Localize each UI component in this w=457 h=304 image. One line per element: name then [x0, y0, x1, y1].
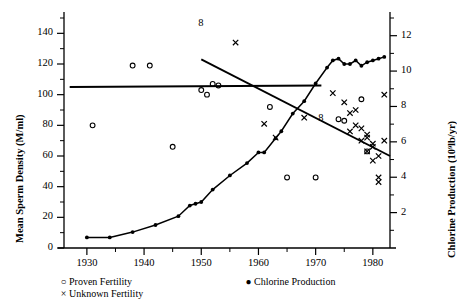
y-tick-label-right: 6 [401, 135, 406, 146]
y-tick-label-left: 140 [0, 26, 53, 37]
x-tick-label: 1950 [181, 257, 221, 268]
unknown-fertility-point [302, 115, 307, 120]
chlorine-production-point [291, 112, 295, 116]
chlorine-production-point [245, 161, 249, 165]
chlorine-production-point [279, 129, 283, 133]
legend-label: Proven Fertility [69, 276, 132, 287]
unknown-fertility-point [376, 175, 381, 180]
proven-fertility-point [170, 144, 175, 149]
chlorine-production-point [228, 174, 232, 178]
x-tick-label: 1940 [124, 257, 164, 268]
chlorine-production-point [262, 151, 266, 155]
proven-fertility-point [313, 175, 318, 180]
unknown-fertility-point [261, 121, 266, 126]
y-tick-label-left: 20 [0, 210, 53, 221]
chlorine-production-point [342, 62, 346, 66]
chlorine-production-point [194, 202, 198, 206]
chlorine-production-point [131, 230, 135, 234]
chlorine-production-point [154, 223, 158, 227]
chlorine-production-point [337, 57, 341, 61]
unknown-fertility-point [353, 107, 358, 112]
chlorine-production-point [188, 204, 192, 208]
proven-fertility-point [285, 175, 290, 180]
chlorine-production-point [199, 200, 203, 204]
legend-item: ●Chlorine Production [243, 276, 335, 287]
chlorine-production-point [354, 59, 358, 63]
x-tick-label: 1980 [353, 257, 393, 268]
legend-marker-icon: ● [243, 276, 254, 287]
proven-fertility-point [336, 117, 341, 122]
unknown-fertility-point [359, 126, 364, 131]
proven-fertility-point [90, 123, 95, 128]
proven-fertility-point [147, 63, 152, 68]
chlorine-production-point [85, 235, 89, 239]
y-tick-label-left: 0 [0, 241, 53, 252]
sample-size-annotation: 8 [198, 17, 203, 28]
proven-fertility-point [130, 63, 135, 68]
unknown-fertility-point [342, 100, 347, 105]
legend-marker-icon: ○ [58, 276, 69, 287]
chlorine-production-point [314, 82, 318, 86]
proven-fertility-point [199, 88, 204, 93]
chlorine-production-point [365, 60, 369, 64]
chlorine-production-point [211, 188, 215, 192]
y-tick-label-left: 60 [0, 149, 53, 160]
proven-fertility-point [342, 118, 347, 123]
legend-label: Unknown Fertility [69, 288, 143, 299]
chlorine-production-point [325, 66, 329, 70]
chlorine-production-point [377, 57, 381, 61]
chlorine-production-point [257, 151, 261, 155]
chlorine-production-point [108, 235, 112, 239]
unknown-fertility-point [330, 90, 335, 95]
unknown-fertility-point [353, 123, 358, 128]
legend-marker-icon: × [58, 288, 69, 299]
chlorine-production-point [302, 99, 306, 103]
x-tick-label: 1930 [67, 257, 107, 268]
x-tick-label: 1970 [296, 257, 336, 268]
sample-size-annotation: 8 [318, 112, 323, 123]
y-tick-label-left: 100 [0, 88, 53, 99]
chlorine-production-point [382, 55, 386, 59]
chlorine-production-point [176, 214, 180, 218]
y-tick-label-right: 2 [401, 206, 406, 217]
chlorine-production-point [360, 64, 364, 68]
y-tick-label-right: 8 [401, 99, 406, 110]
unknown-fertility-point [370, 158, 375, 163]
flat-regression-line [70, 85, 322, 87]
x-tick-label: 1960 [238, 257, 278, 268]
unknown-fertility-point [347, 129, 352, 134]
unknown-fertility-point [364, 135, 369, 140]
legend-item: ×Unknown Fertility [58, 288, 143, 299]
legend-label: Chlorine Production [254, 276, 335, 287]
unknown-fertility-point [347, 110, 352, 115]
unknown-fertility-point [376, 153, 381, 158]
y-tick-label-right: 4 [401, 170, 406, 181]
chlorine-production-line [87, 57, 384, 238]
unknown-fertility-point [233, 40, 238, 45]
unknown-fertility-point [382, 138, 387, 143]
chlorine-production-point [371, 59, 375, 63]
chlorine-production-point [331, 59, 335, 63]
legend-item: ○Proven Fertility [58, 276, 132, 287]
y-tick-label-left: 120 [0, 57, 53, 68]
proven-fertility-point [359, 97, 364, 102]
proven-fertility-point [205, 92, 210, 97]
y-tick-label-right: 12 [401, 29, 412, 40]
y-tick-label-left: 40 [0, 180, 53, 191]
chlorine-production-point [274, 136, 278, 140]
y-tick-label-left: 80 [0, 118, 53, 129]
chlorine-production-point [348, 62, 352, 66]
proven-fertility-point [267, 105, 272, 110]
y-tick-label-right: 10 [401, 64, 412, 75]
legend: ○Proven Fertility×Unknown Fertility●Chlo… [0, 276, 453, 304]
unknown-fertility-point [382, 92, 387, 97]
